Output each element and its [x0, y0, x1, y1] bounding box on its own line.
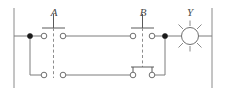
contact-a-upper-left[interactable]: [41, 33, 47, 39]
contact-a-lower-right[interactable]: [60, 72, 66, 78]
lamp-ray-ne: [197, 25, 202, 30]
circuit-schematic: A B Y: [0, 0, 226, 94]
switch-b-label: B: [140, 6, 147, 18]
switch-a-label: A: [50, 6, 58, 18]
contact-a-lower-left[interactable]: [41, 72, 47, 78]
lamp-ray-nw: [179, 25, 184, 30]
right-branch-junction: [162, 33, 167, 38]
contact-a-upper-right[interactable]: [60, 33, 66, 39]
contact-b-upper-left[interactable]: [130, 33, 136, 39]
contact-b-lower-left[interactable]: [130, 72, 136, 78]
lamp-ray-se: [197, 43, 202, 48]
lamp-y-bulb[interactable]: [182, 28, 199, 45]
contact-b-upper-right[interactable]: [149, 33, 155, 39]
contact-b-lower-right[interactable]: [149, 72, 155, 78]
lamp-y-label: Y: [187, 6, 195, 18]
circuit-diagram-canvas: A B Y: [0, 0, 226, 94]
lamp-ray-sw: [179, 43, 184, 48]
left-branch-junction: [27, 33, 32, 38]
